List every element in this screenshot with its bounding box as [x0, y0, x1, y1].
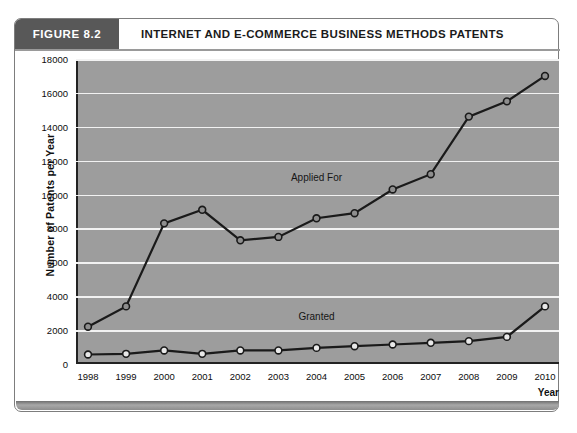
data-point-marker	[465, 113, 472, 120]
data-point-marker	[237, 237, 244, 244]
data-point-marker	[123, 303, 130, 310]
y-tick-label: 6000	[16, 257, 68, 268]
figure-number-tag: FIGURE 8.2	[15, 19, 119, 49]
figure-card: FIGURE 8.2 INTERNET AND E-COMMERCE BUSIN…	[14, 18, 559, 412]
data-point-marker	[237, 347, 244, 354]
figure-title: INTERNET AND E-COMMERCE BUSINESS METHODS…	[119, 19, 560, 49]
data-point-marker	[85, 351, 92, 358]
x-tick-label: 1998	[68, 371, 108, 382]
data-point-marker	[275, 347, 282, 354]
x-tick-label: 2008	[449, 371, 489, 382]
figure-header: FIGURE 8.2 INTERNET AND E-COMMERCE BUSIN…	[15, 19, 560, 49]
chart-zone: Number of Patents per Year 0200040006000…	[15, 51, 560, 403]
data-point-marker	[275, 234, 282, 241]
data-point-marker	[313, 345, 320, 352]
data-point-marker	[427, 339, 434, 346]
x-tick-label: 2005	[335, 371, 375, 382]
data-point-marker	[504, 333, 511, 340]
y-tick-label: 10000	[16, 189, 68, 200]
x-tick-label: 2010	[525, 371, 565, 382]
y-tick-label: 4000	[16, 291, 68, 302]
x-tick-label: 2007	[411, 371, 451, 382]
y-tick-label: 16000	[16, 87, 68, 98]
y-axis-title: Number of Patents per Year	[44, 110, 56, 300]
x-tick-label: 2003	[258, 371, 298, 382]
data-point-marker	[542, 73, 549, 80]
series-line	[88, 76, 545, 327]
y-tick-label: 0	[16, 359, 68, 370]
y-tick-label: 12000	[16, 155, 68, 166]
x-tick-label: 2006	[373, 371, 413, 382]
figure-footer-bar	[16, 401, 559, 410]
x-tick-label: 2004	[297, 371, 337, 382]
data-point-marker	[313, 215, 320, 222]
data-point-marker	[504, 98, 511, 105]
x-tick-label: 2002	[220, 371, 260, 382]
y-tick-label: 18000	[16, 54, 68, 65]
x-axis-title: Year	[538, 387, 559, 398]
data-point-marker	[199, 206, 206, 213]
y-tick-label: 14000	[16, 121, 68, 132]
data-point-marker	[465, 338, 472, 345]
data-point-marker	[351, 343, 358, 350]
data-point-marker	[351, 210, 358, 217]
data-point-marker	[161, 347, 168, 354]
data-point-marker	[389, 186, 396, 193]
plot-frame: 0200040006000800010000120001400016000180…	[76, 59, 559, 364]
y-tick-label: 2000	[16, 325, 68, 336]
data-point-marker	[199, 350, 206, 357]
y-tick-label: 8000	[16, 223, 68, 234]
series-label-applied-for: Applied For	[291, 172, 342, 183]
data-point-marker	[161, 220, 168, 227]
x-tick-label: 2001	[182, 371, 222, 382]
data-point-marker	[85, 323, 92, 330]
data-point-marker	[427, 171, 434, 178]
data-point-marker	[542, 303, 549, 310]
series-label-granted: Granted	[298, 311, 334, 322]
x-tick-label: 1999	[106, 371, 146, 382]
x-tick-label: 2000	[144, 371, 184, 382]
x-tick-label: 2009	[487, 371, 527, 382]
data-point-marker	[389, 341, 396, 348]
data-point-marker	[123, 350, 130, 357]
